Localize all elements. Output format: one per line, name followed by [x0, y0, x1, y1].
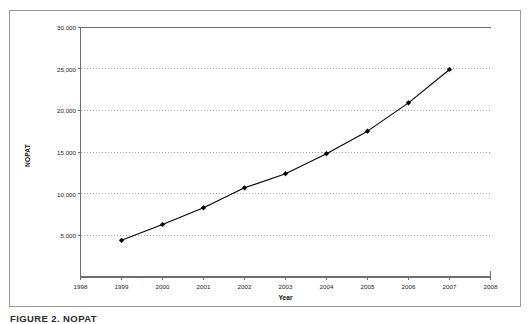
y-tick-label-15000: 15,000 — [40, 149, 76, 156]
x-tick-label-1999: 1999 — [115, 283, 129, 290]
y-tick-label-20000: 20,000 — [40, 107, 76, 114]
x-tick-label-2002: 2002 — [238, 283, 252, 290]
y-tick-label-10000: 10,000 — [40, 190, 76, 197]
x-tick-label-2007: 2007 — [443, 283, 457, 290]
y-tick-label-25000: 25,000 — [40, 65, 76, 72]
x-tick-label-2001: 2001 — [197, 283, 211, 290]
x-tick-label-2000: 2000 — [156, 283, 170, 290]
x-tick-label-2003: 2003 — [279, 283, 293, 290]
x-tick-label-2004: 2004 — [320, 283, 334, 290]
x-axis-title: Year — [279, 294, 293, 301]
y-axis-title: NOPAT — [24, 144, 31, 167]
x-tick-label-2008: 2008 — [484, 283, 498, 290]
x-tick-label-1998: 1998 — [74, 283, 88, 290]
y-tick-label-5000: 5,000 — [40, 232, 76, 239]
figure-caption: FIGURE 2. NOPAT — [10, 313, 97, 324]
figure-border — [9, 10, 521, 307]
y-tick-label-30000: 30,000 — [40, 24, 76, 31]
x-tick-label-2006: 2006 — [402, 283, 416, 290]
x-tick-label-2005: 2005 — [361, 283, 375, 290]
